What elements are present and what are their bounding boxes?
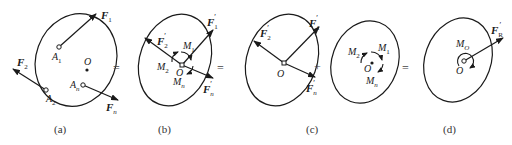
operator-equals-2: =: [217, 61, 224, 75]
operator-equals-1: =: [113, 61, 120, 75]
panel-d: FR′ MO O (d): [412, 8, 503, 136]
point-a1: [57, 45, 61, 49]
point-o: [85, 68, 88, 71]
label-a1: A1: [51, 51, 62, 65]
rigid-body-outline: [320, 11, 411, 113]
point-o: [282, 61, 286, 65]
moment-mn-arc: [378, 64, 383, 72]
label-o: O: [176, 67, 183, 78]
force-f2-prime-arrow: [254, 41, 284, 63]
label-f1-prime: F1′: [206, 13, 218, 31]
label-m2: M2: [347, 46, 360, 60]
caption-d: (d): [443, 123, 456, 136]
label-mo: MO: [455, 38, 469, 52]
label-mn: Mn: [365, 75, 378, 89]
rigid-body-outline: [22, 2, 129, 118]
moment-m1-arc: [371, 52, 382, 60]
force-fn-prime-arrow: [284, 63, 315, 77]
moment-m2-arc: [361, 53, 367, 63]
label-f2-prime: F2′: [259, 24, 271, 42]
point-o: [462, 59, 466, 63]
force-f2-arrow: [13, 69, 46, 90]
panel-c-couples: M2 M1 Mn O (c): [306, 11, 410, 136]
label-f2: F2: [16, 56, 28, 71]
caption-b: (b): [158, 123, 171, 136]
operator-equals-3: =: [402, 61, 409, 75]
force-f1-prime-arrow: [284, 27, 319, 63]
label-m1: M1: [377, 42, 390, 56]
label-o: O: [277, 68, 284, 79]
label-mn: Mn: [172, 76, 185, 90]
label-m2: M2: [156, 61, 169, 75]
label-a2: A2: [45, 93, 56, 107]
label-o: O: [364, 63, 371, 74]
moment-m1-arc: [181, 52, 191, 60]
point-a2: [44, 88, 48, 92]
label-fn-prime: Fn′: [202, 80, 214, 98]
force-f1-arrow: [59, 14, 96, 47]
label-o: O: [84, 56, 91, 67]
label-fn-prime: Fn′: [305, 79, 317, 97]
label-fr-prime: FR′: [490, 21, 503, 39]
label-an: An: [69, 79, 80, 93]
caption-c: (c): [306, 123, 319, 136]
label-fn: Fn: [105, 101, 117, 116]
label-o: O: [456, 65, 463, 76]
point-an: [81, 83, 85, 87]
panel-b: F1′ F2′ Fn′ M1 M2 Mn O (b): [126, 4, 224, 136]
operator-plus: +: [314, 60, 321, 74]
force-system-diagram: F1 F2 Fn A1 A2 An O (a) = F1′ F2′ Fn′ M1…: [0, 0, 512, 145]
label-f1-prime: F1′: [308, 14, 320, 32]
force-fr-prime-arrow: [464, 38, 503, 61]
force-fn-arrow: [83, 85, 118, 100]
caption-a: (a): [54, 123, 67, 136]
